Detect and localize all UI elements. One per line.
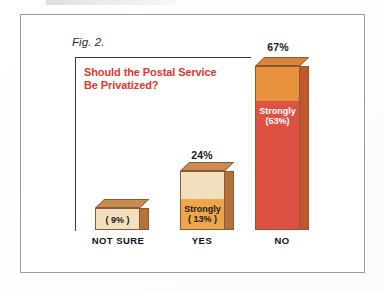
bar-strongly-title-no: Strongly [259,106,296,116]
bar-top-face-no [255,57,309,66]
bar-strongly-value-no: (53%) [255,116,300,126]
bar-inside-value-not-sure: ( 9% ) [95,215,140,225]
bar-segment-remainder-no [256,67,299,101]
bar-value-no: 67% [248,41,308,53]
bar-side-face-yes [225,171,234,230]
bar-category-not-sure: NOT SURE [75,235,161,246]
bar-top-face-yes [180,162,234,171]
bar-side-face-no [300,66,309,230]
bar-segment-remainder-yes [181,172,224,199]
bar-value-yes: 24% [172,149,232,161]
bar-category-yes: YES [159,235,245,246]
plot-area: ( 9% ) ( 9% ) NOT SURE 24% Strongly ( 13… [0,0,384,290]
bar-strongly-label-no: Strongly (53%) [255,106,300,126]
bar-strongly-value-yes: ( 13% ) [180,214,225,224]
bar-category-no: NO [239,235,325,246]
bar-side-face-not-sure [140,208,149,230]
bar-strongly-title-yes: Strongly [184,204,221,214]
bar-top-face-not-sure [95,199,149,208]
bar-front-face-no [255,66,300,230]
bar-strongly-label-yes: Strongly ( 13% ) [180,204,225,224]
